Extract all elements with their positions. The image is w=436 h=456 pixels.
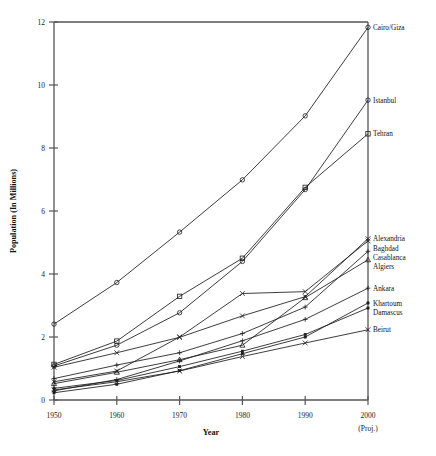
x-tick-label: 1980 [235,411,250,420]
series-marker-damascus [367,307,369,309]
series-marker-khartoum [53,392,55,394]
series-marker-damascus [241,350,243,352]
y-tick-label: 2 [41,333,45,342]
series-line-damascus [54,308,368,388]
series-line-cairo-giza [54,27,368,324]
y-tick-label: 10 [38,81,46,90]
chart-canvas: 024681012195019601970198019902000(Proj.)… [0,0,436,456]
series-endpoint-label-khartoum: Khartoum [373,300,403,308]
series-endpoint-label-baghdad: Baghdad [373,245,399,253]
series-line-beirut [54,330,368,390]
series-marker-khartoum [116,383,118,385]
population-line-chart: 024681012195019601970198019902000(Proj.)… [0,0,436,456]
x-tick-label: 2000 [361,411,376,420]
y-tick-label: 4 [41,270,45,279]
series-endpoint-label-damascus: Damascus [373,309,403,317]
x-tick-sublabel-projection: (Proj.) [358,424,378,433]
series-line-khartoum [54,303,368,393]
series-marker-khartoum [241,353,243,355]
series-endpoint-label-casablanca: Casablanca [373,254,407,262]
series-marker-damascus [179,366,181,368]
series-marker-khartoum [304,336,306,338]
x-tick-label: 1970 [172,411,187,420]
series-line-alexandria [54,239,368,368]
y-tick-label: 0 [41,396,45,405]
y-axis-title: Population (In Millions) [9,169,18,253]
series-line-istanbul [54,100,368,366]
y-tick-label: 12 [38,18,46,27]
x-axis-title: Year [203,428,220,437]
series-line-tehran [54,134,368,365]
y-tick-label: 8 [41,144,45,153]
series-endpoint-label-ankara: Ankara [373,285,395,293]
series-endpoint-label-beirut: Beirut [373,326,391,334]
series-line-algiers [54,260,368,384]
series-endpoint-label-cairo-giza: Cairo/Giza [373,24,405,32]
x-tick-label: 1950 [47,411,62,420]
series-marker-damascus [304,333,306,335]
series-endpoint-label-istanbul: Istanbul [373,97,396,105]
y-tick-label: 6 [41,207,45,216]
series-marker-khartoum [367,302,369,304]
series-endpoint-label-alexandria: Alexandria [373,235,406,243]
x-tick-label: 1990 [298,411,313,420]
series-endpoint-label-algiers: Algiers [373,263,394,271]
x-tick-label: 1960 [109,411,124,420]
series-endpoint-label-tehran: Tehran [373,130,393,138]
